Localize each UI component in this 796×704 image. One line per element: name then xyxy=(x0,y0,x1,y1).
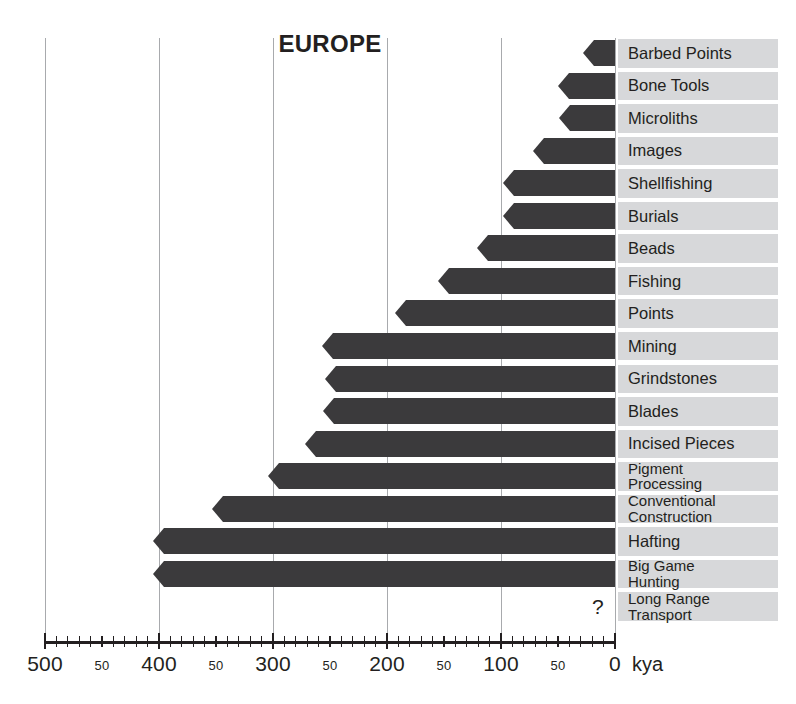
bar xyxy=(316,431,615,457)
category-label-text: Long RangeTransport xyxy=(628,591,710,623)
tick-210kya xyxy=(375,636,376,647)
tick-310kya xyxy=(261,636,262,647)
tick-430kya xyxy=(124,636,125,647)
bar xyxy=(514,203,615,229)
category-label-text: Bone Tools xyxy=(628,77,709,94)
tick-300kya xyxy=(272,633,274,649)
tick-10kya xyxy=(603,636,604,647)
tick-180kya xyxy=(409,636,410,647)
bar-tip-arrow xyxy=(477,235,488,261)
tick-250kya xyxy=(329,636,330,647)
tick-30kya xyxy=(580,636,581,647)
tick-120kya xyxy=(478,636,479,647)
tick-420kya xyxy=(136,636,137,647)
category-label: Mining xyxy=(618,332,778,361)
tick-330kya xyxy=(238,636,239,647)
tick-390kya xyxy=(170,636,171,647)
x-axis-unit-label: kya xyxy=(632,653,663,676)
tick-440kya xyxy=(113,636,114,647)
category-label: Points xyxy=(618,299,778,328)
bar xyxy=(544,138,615,164)
tick-410kya xyxy=(147,636,148,647)
bar-tip-arrow xyxy=(322,333,333,359)
category-label: Beads xyxy=(618,234,778,263)
bar xyxy=(569,73,615,99)
bar-tip-arrow xyxy=(503,203,514,229)
tick-220kya xyxy=(364,636,365,647)
category-label: Blades xyxy=(618,397,778,426)
category-label-text: Blades xyxy=(628,403,678,420)
tick-110kya xyxy=(489,636,490,647)
category-label: Big GameHunting xyxy=(618,560,778,589)
chart-title: EUROPE xyxy=(255,30,405,58)
category-label-text: Mining xyxy=(628,338,677,355)
category-label-text: Fishing xyxy=(628,273,681,290)
tick-20kya xyxy=(592,636,593,647)
category-label: Images xyxy=(618,137,778,166)
bar-tip-arrow xyxy=(559,105,570,131)
category-label: Fishing xyxy=(618,267,778,296)
bar xyxy=(594,40,615,66)
tick-360kya xyxy=(204,636,205,647)
tick-140kya xyxy=(455,636,456,647)
bar-tip-arrow xyxy=(533,138,544,164)
category-label-text: Microliths xyxy=(628,110,698,127)
tick-150kya xyxy=(443,636,444,647)
bar xyxy=(334,398,615,424)
bar xyxy=(449,268,615,294)
category-label: Bone Tools xyxy=(618,72,778,101)
x-tick-label-450: 50 xyxy=(95,658,110,673)
x-tick-label-300: 300 xyxy=(255,652,291,676)
bar-tip-arrow xyxy=(325,366,336,392)
bar xyxy=(336,366,615,392)
tick-450kya xyxy=(101,636,102,647)
bar xyxy=(488,235,615,261)
tick-480kya xyxy=(67,636,68,647)
category-label-text: Images xyxy=(628,142,682,159)
tick-190kya xyxy=(398,636,399,647)
bar xyxy=(279,463,615,489)
x-tick-label-250: 50 xyxy=(323,658,338,673)
tick-470kya xyxy=(79,636,80,647)
tick-130kya xyxy=(466,636,467,647)
tick-70kya xyxy=(535,636,536,647)
category-label: PigmentProcessing xyxy=(618,462,778,491)
category-label-text: Points xyxy=(628,305,674,322)
category-label: Shellfishing xyxy=(618,169,778,198)
bar-tip-arrow xyxy=(395,300,406,326)
category-label-text: PigmentProcessing xyxy=(628,461,702,493)
tick-490kya xyxy=(56,636,57,647)
category-label-text: Incised Pieces xyxy=(628,435,734,452)
tick-40kya xyxy=(569,636,570,647)
category-label: Burials xyxy=(618,202,778,231)
bar-tip-arrow xyxy=(305,431,316,457)
x-tick-label-200: 200 xyxy=(369,652,405,676)
bar xyxy=(164,561,615,587)
bar xyxy=(164,528,615,554)
tick-270kya xyxy=(307,636,308,647)
x-tick-label-100: 100 xyxy=(483,652,519,676)
category-label-text: ConventionalConstruction xyxy=(628,493,716,525)
bar xyxy=(333,333,615,359)
tick-90kya xyxy=(512,636,513,647)
category-label-text: Burials xyxy=(628,208,678,225)
tick-460kya xyxy=(90,636,91,647)
tick-370kya xyxy=(193,636,194,647)
bar-tip-arrow xyxy=(583,40,594,66)
tick-170kya xyxy=(421,636,422,647)
category-label-text: Big GameHunting xyxy=(628,558,695,590)
unknown-value-question-mark: ? xyxy=(592,595,604,619)
x-tick-label-400: 400 xyxy=(141,652,177,676)
bar-tip-arrow xyxy=(153,528,164,554)
gridline-500kya xyxy=(45,38,46,636)
x-tick-label-350: 50 xyxy=(209,658,224,673)
category-label-text: Grindstones xyxy=(628,370,717,387)
category-label-text: Hafting xyxy=(628,533,680,550)
tick-340kya xyxy=(227,636,228,647)
bar xyxy=(406,300,615,326)
category-label-text: Beads xyxy=(628,240,675,257)
bar xyxy=(514,170,615,196)
tick-400kya xyxy=(158,633,160,649)
bar xyxy=(223,496,615,522)
tick-500kya xyxy=(44,633,46,649)
